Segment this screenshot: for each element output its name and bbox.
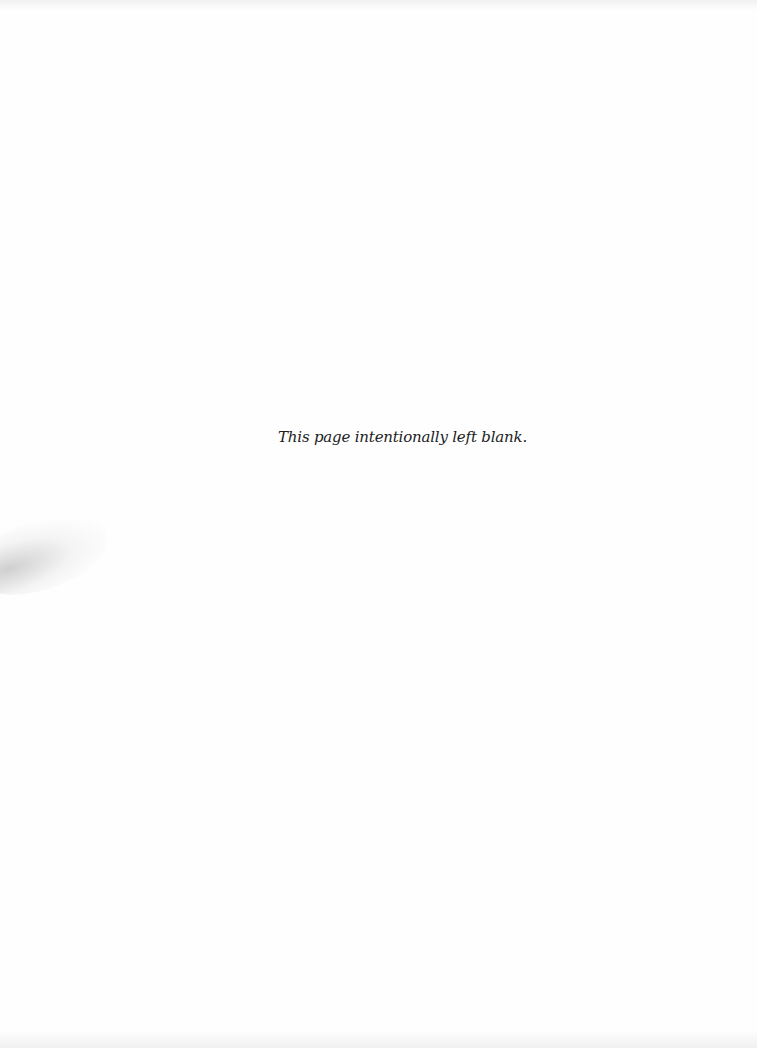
scan-bleed-bottom — [0, 1030, 757, 1048]
scan-smudge — [0, 500, 117, 610]
document-page: This page intentionally left blank. — [0, 0, 757, 1048]
scan-bleed-top — [0, 0, 757, 10]
blank-page-notice: This page intentionally left blank. — [0, 428, 757, 446]
